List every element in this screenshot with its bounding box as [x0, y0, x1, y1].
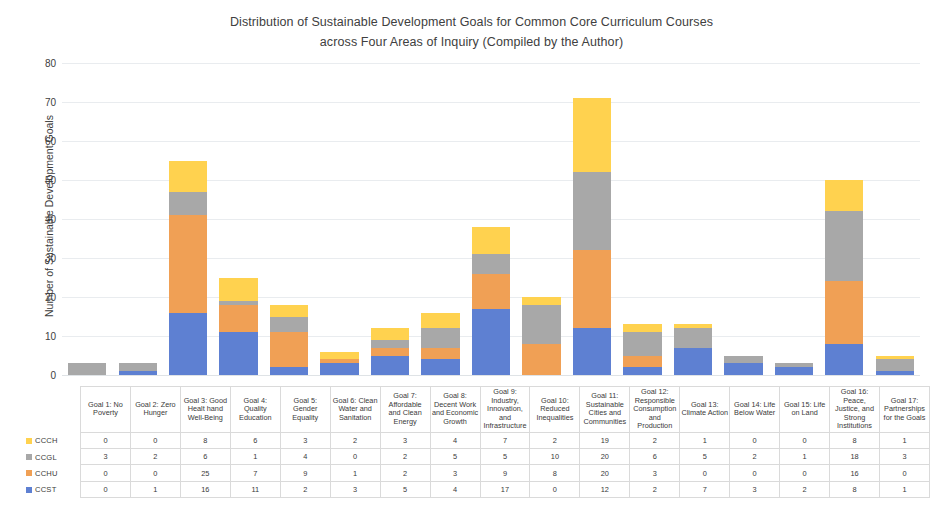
bar-stack — [573, 98, 611, 375]
legend-label: CCHU — [35, 469, 58, 478]
table-column-header: Goal 5: Gender Equality — [280, 387, 330, 433]
bar-segment-ccgl — [270, 317, 308, 333]
table-column-header: Goal 9: Industry, Innovation, and Infras… — [480, 387, 530, 433]
bar-stack — [724, 356, 762, 375]
table-cell: 12 — [580, 481, 630, 497]
table-cell: 2 — [330, 432, 380, 448]
bar-segment-ccgl — [472, 254, 510, 274]
table-column-header: Goal 16: Peace, Justice, and Strong Inst… — [830, 387, 880, 433]
table-header-row: Goal 1: No PovertyGoal 2: Zero HungerGoa… — [22, 387, 930, 433]
table-cell: 5 — [380, 481, 430, 497]
table-cell: 5 — [430, 449, 480, 465]
table-cell: 1 — [780, 449, 830, 465]
table-cell: 8 — [180, 432, 230, 448]
table-cell: 0 — [730, 465, 780, 481]
table-cell: 0 — [530, 481, 580, 497]
bar-segment-ccst — [421, 359, 459, 375]
chart-title-line-1: Distribution of Sustainable Development … — [0, 12, 943, 32]
legend-row-ccgl: CCGL — [22, 449, 81, 465]
table-corner-cell — [22, 387, 81, 433]
table-cell: 19 — [580, 432, 630, 448]
table-cell: 8 — [830, 432, 880, 448]
table-cell: 6 — [230, 432, 280, 448]
table-cell: 2 — [380, 465, 430, 481]
bar-segment-ccst — [825, 344, 863, 375]
table-column-header: Goal 17: Partnerships for the Goals — [880, 387, 930, 433]
bar-group — [769, 58, 819, 380]
table-cell: 3 — [380, 432, 430, 448]
y-tick-50: 50 — [22, 175, 56, 186]
table-cell: 1 — [880, 481, 930, 497]
bar-group — [870, 58, 920, 380]
y-tick-20: 20 — [22, 292, 56, 303]
bar-segment-ccgl — [169, 192, 207, 215]
table-cell: 6 — [630, 449, 680, 465]
table-cell: 1 — [130, 481, 180, 497]
table-cell: 16 — [180, 481, 230, 497]
table-cell: 25 — [180, 465, 230, 481]
bar-group — [567, 58, 617, 380]
bar-segment-ccgl — [119, 363, 157, 371]
table-column-header: Goal 14: Life Below Water — [730, 387, 780, 433]
y-axis-tick-labels: 01020304050607080 — [22, 58, 56, 380]
bar-group — [718, 58, 768, 380]
bar-stack — [219, 278, 257, 375]
bar-stack — [472, 227, 510, 375]
table-row: CCST011611235417012273281 — [22, 481, 930, 497]
bar-segment-cchu — [219, 305, 257, 332]
table-cell: 7 — [680, 481, 730, 497]
bar-stack — [371, 328, 409, 375]
bar-segment-cchu — [371, 348, 409, 356]
y-tick-70: 70 — [22, 97, 56, 108]
table-cell: 3 — [880, 449, 930, 465]
bar-segment-ccgl — [724, 356, 762, 364]
bar-stack — [876, 356, 914, 375]
table-column-header: Goal 12: Responsible Consumption and Pro… — [630, 387, 680, 433]
table-body: CCCH008632347219210081CCGL32614025510206… — [22, 432, 930, 497]
table-cell: 9 — [480, 465, 530, 481]
bar-group — [62, 58, 112, 380]
bar-segment-ccst — [876, 371, 914, 375]
bars-layer — [62, 58, 920, 380]
bar-segment-ccst — [472, 309, 510, 375]
table-cell: 2 — [780, 481, 830, 497]
table-cell: 0 — [780, 465, 830, 481]
bar-stack — [421, 313, 459, 375]
bar-group — [314, 58, 364, 380]
table-cell: 3 — [630, 465, 680, 481]
table-cell: 0 — [81, 465, 131, 481]
y-tick-40: 40 — [22, 214, 56, 225]
legend-swatch-icon — [26, 454, 32, 460]
chart-title-line-2: across Four Areas of Inquiry (Compiled b… — [0, 32, 943, 52]
y-tick-10: 10 — [22, 331, 56, 342]
table-cell: 4 — [430, 481, 480, 497]
table-cell: 3 — [330, 481, 380, 497]
table-cell: 17 — [480, 481, 530, 497]
table-column-header: Goal 1: No Poverty — [81, 387, 131, 433]
table-cell: 2 — [630, 481, 680, 497]
table-cell: 9 — [280, 465, 330, 481]
legend-label: CCGL — [35, 453, 57, 462]
table-cell: 4 — [430, 432, 480, 448]
bar-segment-ccst — [119, 371, 157, 375]
table-cell: 5 — [480, 449, 530, 465]
bar-stack — [623, 324, 661, 375]
table-row: CCHU00257912398203000160 — [22, 465, 930, 481]
bar-stack — [674, 324, 712, 375]
y-tick-30: 30 — [22, 253, 56, 264]
legend-swatch-icon — [26, 470, 32, 476]
bar-segment-ccst — [219, 332, 257, 375]
bar-group — [264, 58, 314, 380]
table-cell: 16 — [830, 465, 880, 481]
bar-segment-ccch — [219, 278, 257, 301]
bar-stack — [68, 363, 106, 375]
bar-segment-cchu — [623, 356, 661, 368]
bar-segment-ccgl — [623, 332, 661, 355]
table-cell: 2 — [380, 449, 430, 465]
table-row: CCCH008632347219210081 — [22, 432, 930, 448]
bar-segment-ccch — [320, 352, 358, 360]
bar-group — [819, 58, 869, 380]
table-cell: 0 — [130, 432, 180, 448]
bar-segment-ccst — [724, 363, 762, 375]
table-cell: 0 — [330, 449, 380, 465]
